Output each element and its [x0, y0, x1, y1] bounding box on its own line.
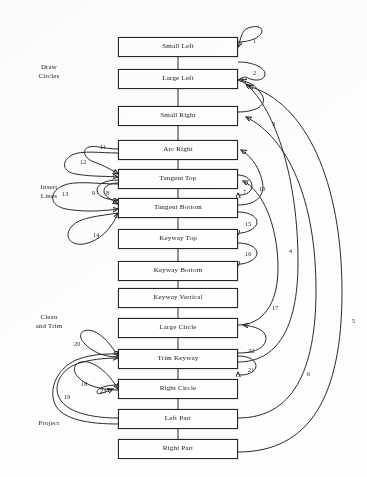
node-label: Arc Right — [163, 146, 193, 153]
feedback-19b — [53, 354, 118, 424]
feedback-3 — [238, 80, 264, 112]
edge-label-16: 16 — [245, 251, 251, 257]
edge-label-10: 10 — [259, 186, 265, 192]
node-label: Trim Keyway — [158, 355, 199, 362]
node-label: Keyway Bottom — [154, 267, 203, 274]
edge-label-20: 20 — [74, 341, 80, 347]
edge-label-7: 7 — [243, 189, 246, 195]
node-label: Large Circle — [159, 324, 196, 331]
feedback-12 — [65, 152, 118, 177]
feedback-5 — [238, 86, 342, 452]
feedback-14 — [68, 213, 118, 244]
feedback-10 — [238, 150, 263, 205]
group-label-project: Project — [22, 419, 76, 428]
node-small-right[interactable]: Small Right — [118, 106, 238, 126]
node-label: Small Right — [160, 112, 196, 119]
edge-label-17: 17 — [272, 305, 278, 311]
node-large-circle[interactable]: Large Circle — [118, 318, 238, 338]
feedback-20 — [81, 330, 118, 357]
node-left-part[interactable]: Left Part — [118, 409, 238, 429]
node-label: Left Part — [165, 415, 191, 422]
self-loop-1 — [238, 27, 262, 47]
self-loop-2 — [238, 62, 265, 80]
group-line-2: and Trim — [20, 322, 78, 331]
edge-label-15: 15 — [245, 221, 251, 227]
edge-label-12: 12 — [80, 159, 86, 165]
node-arc-right[interactable]: Arc Right — [118, 140, 238, 160]
node-label: Small Left — [162, 43, 194, 50]
edge-label-19: 19 — [64, 394, 70, 400]
edge-label-2: 2 — [253, 70, 256, 76]
node-label: Tangent Top — [160, 175, 197, 182]
node-label: Right Part — [163, 445, 193, 452]
edge-label-11: 11 — [100, 144, 106, 150]
node-right-part[interactable]: Right Part — [118, 439, 238, 459]
group-line-2: Circles — [22, 72, 76, 81]
diagram-canvas: Draw Circles Insert Lines Clean and Trim… — [0, 0, 367, 477]
feedback-19 — [57, 358, 118, 418]
edge-label-6: 6 — [307, 371, 310, 377]
node-keyway-top[interactable]: Keyway Top — [118, 229, 238, 249]
edge-label-14: 14 — [93, 232, 99, 238]
node-large-left[interactable]: Large Left — [118, 69, 238, 89]
group-line-1: Draw — [22, 63, 76, 72]
node-label: Large Left — [162, 75, 194, 82]
node-right-circle[interactable]: Right Circle — [118, 379, 238, 399]
node-label: Right Circle — [160, 385, 197, 392]
node-label: Tangent Bottom — [154, 204, 202, 211]
edge-label-23: 23 — [100, 388, 106, 394]
edge-label-9: 9 — [92, 190, 95, 196]
edge-label-4: 4 — [289, 248, 292, 254]
node-label: Keyway Top — [159, 235, 197, 242]
edge-label-18: 18 — [81, 381, 87, 387]
group-label-clean-and-trim: Clean and Trim — [20, 313, 78, 330]
node-tangent-bottom[interactable]: Tangent Bottom — [118, 198, 238, 218]
group-label-draw-circles: Draw Circles — [22, 63, 76, 80]
edge-label-8: 8 — [106, 190, 109, 196]
feedback-11 — [85, 146, 118, 174]
edge-label-5: 5 — [352, 318, 355, 324]
edge-label-3: 3 — [272, 121, 275, 127]
node-keyway-vertical[interactable]: Keyway Vertical — [118, 288, 238, 308]
edge-label-13: 13 — [62, 191, 68, 197]
node-trim-keyway[interactable]: Trim Keyway — [118, 349, 238, 369]
group-line-1: Clean — [20, 313, 78, 322]
group-line-1: Project — [22, 419, 76, 428]
feedback-17 — [238, 181, 278, 325]
edge-label-1: 1 — [253, 38, 256, 44]
edge-label-22: 22 — [248, 348, 254, 354]
node-small-left[interactable]: Small Left — [118, 37, 238, 57]
node-tangent-top[interactable]: Tangent Top — [118, 169, 238, 189]
node-label: Keyway Vertical — [153, 294, 203, 301]
edge-label-21: 21 — [248, 367, 254, 373]
node-keyway-bottom[interactable]: Keyway Bottom — [118, 261, 238, 281]
